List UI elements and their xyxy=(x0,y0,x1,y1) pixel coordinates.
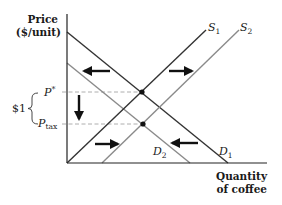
supply-demand-chart: Price ($/unit) Quantity of coffee S1 S2 … xyxy=(0,0,282,205)
s2-curve xyxy=(102,30,239,163)
p-tax-label: Ptax xyxy=(37,117,58,131)
s1-label: S1 xyxy=(208,21,220,36)
d1-label: D1 xyxy=(218,145,233,160)
d2-label: D2 xyxy=(152,145,167,160)
y-axis-label-line1: Price xyxy=(28,13,59,25)
p-star-label: P* xyxy=(43,85,55,99)
equilibrium-point-p-star xyxy=(139,89,144,94)
tax-amount-label: $1 xyxy=(12,102,26,115)
tax-brace xyxy=(28,93,38,124)
y-axis-label-line2: ($/unit) xyxy=(16,26,61,38)
d1-curve xyxy=(67,32,228,163)
s2-label: S2 xyxy=(240,21,253,36)
d2-curve xyxy=(67,63,190,163)
x-axis-label-line2: of coffee xyxy=(216,183,267,195)
x-axis-label-line1: Quantity xyxy=(216,170,268,183)
equilibrium-point-p-tax xyxy=(140,121,145,126)
